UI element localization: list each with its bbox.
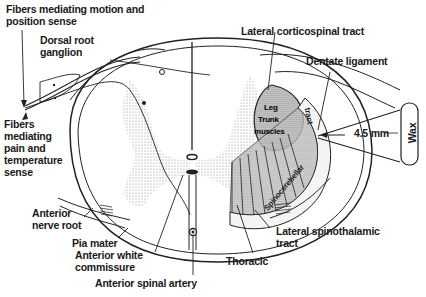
label-dentate-ligament: Dentate ligament	[306, 55, 387, 67]
label-leg: Leg	[264, 102, 278, 114]
label-pain-temperature-fibers: Fibers mediating pain and temperature se…	[4, 118, 63, 178]
label-muscles: muscles	[254, 126, 285, 138]
label-thoracic: Thoracic	[226, 255, 268, 267]
label-anterior-spinal-artery: Anterior spinal artery	[95, 277, 197, 289]
label-tract-inner: tract	[301, 107, 316, 125]
label-anterior-white-commissure: Anterior white commissure	[75, 249, 143, 273]
label-dorsal-root-ganglion: Dorsal root ganglion	[40, 34, 94, 58]
label-measurement: 4.5 mm	[354, 127, 389, 139]
label-pia-mater: Pia mater	[72, 237, 117, 249]
spinal-cord-diagram: Fibers mediating motion and position sen…	[0, 0, 426, 297]
label-trunk: Trunk	[258, 114, 279, 126]
label-anterior-nerve-root: Anterior nerve root	[32, 207, 81, 231]
label-wax: Wax	[406, 123, 418, 144]
label-lateral-corticospinal-tract: Lateral corticospinal tract	[241, 25, 364, 37]
label-motion-position-fibers: Fibers mediating motion and position sen…	[6, 3, 144, 27]
label-lateral-spinothalamic-tract: Lateral spinothalamic tract	[276, 225, 380, 249]
